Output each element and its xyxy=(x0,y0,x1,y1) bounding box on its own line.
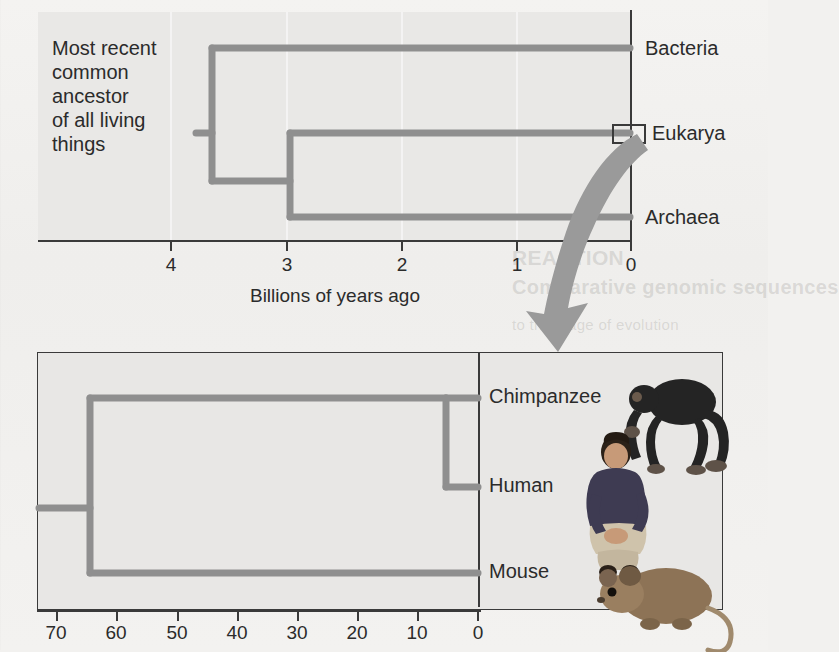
tick-40 xyxy=(237,612,239,621)
tick-label-60: 60 xyxy=(96,622,136,644)
mammal-tree-x-axis xyxy=(37,610,481,612)
tick-70 xyxy=(56,612,58,621)
tick-label-70: 70 xyxy=(36,622,76,644)
tick-label-10: 10 xyxy=(397,622,437,644)
tick-30 xyxy=(297,612,299,621)
tick-20 xyxy=(357,612,359,621)
leaf-label-mouse: Mouse xyxy=(489,560,549,583)
mouse-photo xyxy=(584,552,744,652)
tick-10 xyxy=(417,612,419,621)
tick-label-3: 3 xyxy=(267,254,307,276)
leaf-label-chimpanzee: Chimpanzee xyxy=(489,385,601,408)
tick-label-20: 20 xyxy=(337,622,377,644)
mrca-line-2: common xyxy=(52,60,202,84)
flow-arrow-icon xyxy=(496,128,696,358)
tick-label-4: 4 xyxy=(151,254,191,276)
leaf-label-human: Human xyxy=(489,474,553,497)
mrca-line-4: of all living xyxy=(52,108,202,132)
tick-label-50: 50 xyxy=(157,622,197,644)
tick-0-bottom xyxy=(477,612,479,621)
mrca-line-1: Most recent xyxy=(52,36,202,60)
tick-60 xyxy=(116,612,118,621)
tick-2 xyxy=(401,242,403,251)
tick-label-40: 40 xyxy=(217,622,257,644)
mammal-tree-plot-area xyxy=(38,353,478,607)
mrca-line-5: things xyxy=(52,132,202,156)
mrca-annotation: Most recent common ancestor of all livin… xyxy=(52,36,202,156)
tick-label-2: 2 xyxy=(382,254,422,276)
tick-3 xyxy=(286,242,288,251)
leaf-label-bacteria: Bacteria xyxy=(645,37,718,60)
tick-4 xyxy=(170,242,172,251)
mrca-line-3: ancestor xyxy=(52,84,202,108)
tick-50 xyxy=(177,612,179,621)
tick-label-30: 30 xyxy=(277,622,317,644)
tick-label-0-bottom: 0 xyxy=(458,622,498,644)
panel-divider xyxy=(478,353,480,607)
